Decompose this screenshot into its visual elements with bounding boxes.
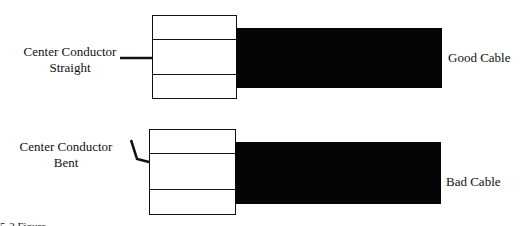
bent-pin [131,140,149,162]
figure-caption: 5-2 Figure [0,219,46,226]
conductor-pins [0,0,523,226]
